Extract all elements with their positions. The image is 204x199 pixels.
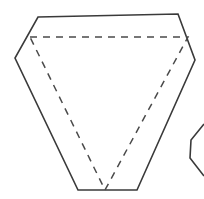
geometric-figure-canvas [0,0,204,199]
